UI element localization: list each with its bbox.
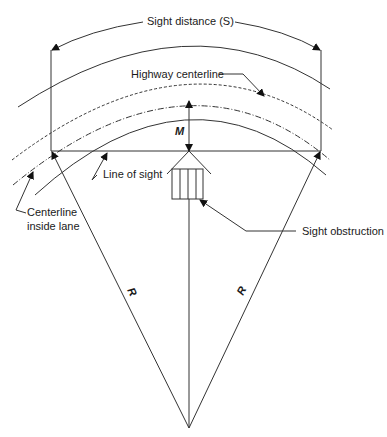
- radius-right-line: [189, 152, 320, 428]
- line-of-sight-label: Line of sight: [103, 168, 162, 180]
- centerline-inside-lane-label-line2: inside lane: [27, 220, 80, 232]
- sight-obstruction-label: Sight obstruction: [302, 225, 384, 237]
- radius-right-label: R: [234, 284, 248, 297]
- highway-centerline-curve: [12, 84, 333, 160]
- middle-ordinate-label: M: [175, 125, 185, 137]
- sight-distance-arc-right: [235, 22, 320, 50]
- centerline-inside-lane-label-line1: Centerline: [27, 206, 77, 218]
- highway-centerline-leader: [219, 74, 264, 96]
- sight-obstruction-building: [167, 151, 211, 199]
- sight-distance-label: Sight distance (S): [147, 15, 234, 27]
- radius-left-label: R: [125, 285, 139, 298]
- highway-centerline-label: Highway centerline: [131, 68, 224, 80]
- sight-distance-arc-left: [52, 22, 143, 50]
- sight-obstruction-leader: [200, 200, 296, 231]
- radius-left-line: [52, 152, 189, 428]
- sight-distance-diagram: Sight distance (S) Highway centerline Li…: [0, 0, 387, 437]
